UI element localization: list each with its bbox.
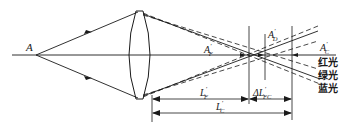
focus-arrow-AD bbox=[258, 53, 264, 57]
legend-green-light: 绿光 bbox=[318, 69, 338, 81]
ray-green-upper bbox=[143, 14, 320, 79]
label-image-AD: A′D bbox=[267, 27, 278, 42]
label-dimension-dLFC: ΔL′FC bbox=[252, 85, 272, 100]
incident-ray-lower bbox=[36, 55, 138, 98]
label-object-A: A bbox=[25, 41, 33, 53]
label-image-AC: A′C bbox=[319, 40, 330, 55]
label-dimension-LC: L′C bbox=[215, 99, 225, 114]
focus-arrow-AC bbox=[292, 53, 298, 57]
chromatic-aberration-diagram: A A′F A′D A′C L′F ΔL′FC L′C 红光 绿光 蓝光 bbox=[0, 0, 348, 135]
legend-red-light: 红光 bbox=[318, 56, 338, 68]
label-dimension-LF: L′F bbox=[199, 85, 209, 100]
label-image-AF: A′F bbox=[203, 42, 214, 57]
legend-blue-light: 蓝光 bbox=[318, 82, 338, 94]
incident-ray-upper bbox=[36, 12, 138, 55]
